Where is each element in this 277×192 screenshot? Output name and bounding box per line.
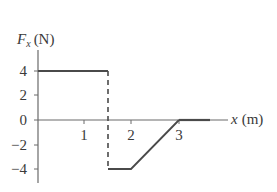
- y-tick-label: −2: [11, 137, 27, 153]
- y-tick-label: −4: [11, 161, 27, 177]
- x-axis-label: x(m): [230, 111, 263, 128]
- force-position-chart: 4 2 0 −2 −4 1 2 3 Fx(N) x(m): [0, 0, 277, 192]
- y-tick-label: 4: [20, 63, 28, 79]
- y-tick-label: 2: [20, 87, 28, 103]
- x-tick-label: 3: [175, 127, 183, 143]
- x-tick-label: 1: [80, 127, 88, 143]
- x-tick-label: 2: [127, 127, 135, 143]
- y-tick-label: 0: [20, 112, 28, 128]
- y-axis-label: Fx(N): [16, 31, 54, 49]
- force-segment-negative-ramp: [108, 120, 179, 169]
